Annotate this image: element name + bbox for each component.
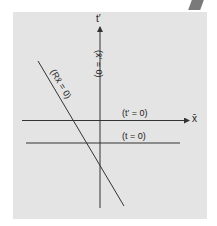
x-prime-zero-label: (x̄′ = 0) <box>94 50 103 77</box>
diagram-canvas: t′ x̄ (t′ = 0) (t = 0) (x̄′ = 0) (Rx̄ = … <box>0 0 217 226</box>
t-prime-axis-label: t′ <box>96 14 101 24</box>
t-prime-zero-label: (t′ = 0) <box>122 109 147 118</box>
x-bar-axis-label: x̄ <box>192 114 197 124</box>
spacetime-diagram <box>0 0 217 226</box>
r-x-zero-line <box>38 61 124 206</box>
t-zero-label: (t = 0) <box>122 132 146 141</box>
